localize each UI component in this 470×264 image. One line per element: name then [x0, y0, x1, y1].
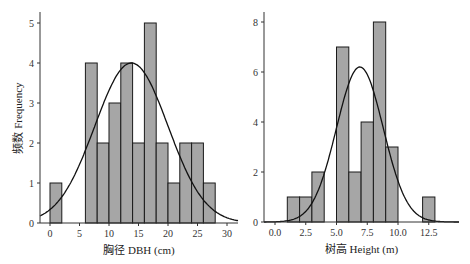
x-tick-label: 12.5	[420, 227, 438, 238]
x-tick-label: 7.5	[361, 227, 374, 238]
histogram-bar	[156, 143, 168, 223]
histogram-bar	[85, 63, 97, 223]
x-tick-label: 20	[163, 228, 173, 239]
x-tick-label: 30	[222, 228, 232, 239]
x-tick-label: 0	[48, 228, 53, 239]
histogram-bar	[144, 23, 156, 223]
histogram-figure: 012345051015202530胸径 DBH (cm)频数 Frequenc…	[0, 0, 470, 264]
histogram-bar	[300, 197, 312, 222]
y-tick-label: 2	[29, 138, 34, 149]
y-tick-label: 3	[29, 98, 34, 109]
histogram-bar	[121, 63, 133, 223]
y-tick-label: 1	[29, 178, 34, 189]
x-tick-label: 5	[77, 228, 82, 239]
histogram-bar	[373, 22, 385, 222]
y-axis-label: 频数 Frequency	[11, 82, 24, 154]
histogram-bar	[287, 197, 299, 222]
chart-panel-dbh: 012345051015202530胸径 DBH (cm)频数 Frequenc…	[11, 12, 238, 257]
histogram-bar	[180, 143, 192, 223]
y-tick-label: 8	[253, 17, 258, 28]
y-tick-label: 0	[29, 218, 34, 229]
histogram-bar	[97, 143, 109, 223]
x-tick-label: 10.0	[389, 227, 407, 238]
histogram-bar	[349, 172, 361, 222]
x-tick-label: 0.0	[269, 227, 282, 238]
histogram-bar	[192, 143, 204, 223]
histogram-bar	[50, 183, 62, 223]
histogram-bar	[361, 122, 373, 222]
histogram-bar	[386, 147, 398, 222]
x-axis-label: 胸径 DBH (cm)	[103, 243, 175, 257]
y-tick-label: 4	[253, 117, 258, 128]
y-tick-label: 0	[253, 217, 258, 228]
x-tick-label: 2.5	[300, 227, 313, 238]
x-tick-label: 15	[134, 228, 144, 239]
x-tick-label: 10	[104, 228, 114, 239]
histogram-bar	[337, 47, 349, 222]
histogram-bar	[168, 183, 180, 223]
y-tick-label: 5	[29, 18, 34, 29]
x-axis-label: 树高 Height (m)	[325, 242, 399, 256]
x-tick-label: 25	[193, 228, 203, 239]
chart-panel-height: 024680.02.55.07.510.012.5树高 Height (m)	[253, 12, 459, 256]
histogram-bar	[109, 103, 121, 223]
y-tick-label: 2	[253, 167, 258, 178]
histogram-bar	[133, 143, 145, 223]
x-tick-label: 5.0	[330, 227, 343, 238]
y-tick-label: 6	[253, 67, 258, 78]
y-tick-label: 4	[29, 58, 34, 69]
